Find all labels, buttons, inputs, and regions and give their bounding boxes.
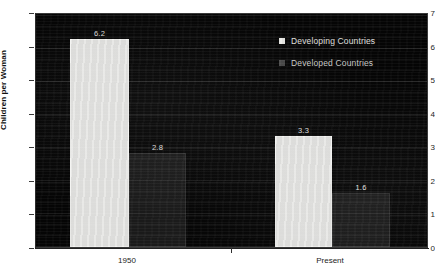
y-tick-label-6: 6 — [409, 42, 435, 51]
y-axis-line — [35, 13, 36, 249]
y-tick-mark-0 — [29, 248, 34, 249]
chart-screenshot: 6.2 2.8 3.3 1.6 Developing Countries Dev… — [0, 0, 435, 277]
y-tick-mark-4 — [29, 114, 34, 115]
bar-1950-developed[interactable] — [129, 153, 186, 247]
x-axis-line — [35, 248, 429, 249]
y-tick-label-3: 3 — [409, 143, 435, 152]
bar-label-present-developing: 3.3 — [275, 126, 332, 135]
bar-present-developed[interactable] — [332, 193, 390, 247]
x-tick-label-1950: 1950 — [97, 256, 157, 265]
legend-item-developing[interactable]: Developing Countries — [279, 36, 375, 46]
x-tick-mark-group-divider — [231, 248, 232, 253]
legend-label-developing: Developing Countries — [291, 36, 375, 46]
bar-label-1950-developing: 6.2 — [70, 29, 129, 38]
bar-1950-developing[interactable] — [70, 39, 129, 247]
y-tick-mark-2 — [29, 181, 34, 182]
bar-label-present-developed: 1.6 — [332, 183, 390, 192]
legend-label-developed: Developed Countries — [291, 58, 373, 68]
legend-swatch-icon-developed — [279, 60, 285, 66]
y-tick-mark-7 — [29, 13, 34, 14]
y-tick-label-7: 7 — [409, 9, 435, 18]
y-tick-label-2: 2 — [409, 176, 435, 185]
legend-swatch-icon-developing — [279, 38, 285, 44]
bar-label-1950-developed: 2.8 — [129, 143, 186, 152]
bar-present-developing[interactable] — [275, 136, 332, 247]
y-tick-label-4: 4 — [409, 109, 435, 118]
y-tick-label-5: 5 — [409, 76, 435, 85]
y-axis-title: Children per Woman — [0, 50, 8, 130]
y-tick-mark-1 — [29, 214, 34, 215]
y-tick-label-1: 1 — [409, 210, 435, 219]
x-tick-label-present: Present — [300, 256, 360, 265]
plot-area: 6.2 2.8 3.3 1.6 Developing Countries Dev… — [35, 13, 428, 248]
y-tick-mark-3 — [29, 147, 34, 148]
legend-item-developed[interactable]: Developed Countries — [279, 58, 375, 68]
legend: Developing Countries Developed Countries — [279, 36, 375, 80]
y-tick-mark-6 — [29, 47, 34, 48]
y-tick-mark-5 — [29, 80, 34, 81]
